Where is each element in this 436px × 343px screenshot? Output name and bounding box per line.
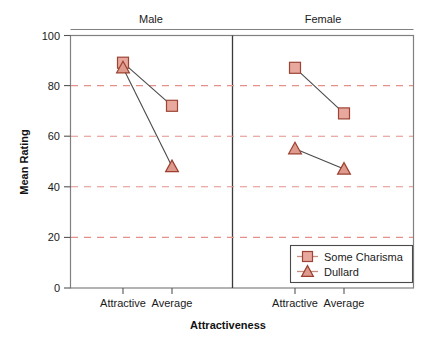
y-tick-label-40: 40 (48, 181, 60, 193)
segment-female-dullard (295, 149, 344, 169)
marker-female-dullard-average (338, 163, 351, 175)
x-tick-label-female-average: Average (324, 297, 365, 309)
marker-female-dullard-attractive (289, 142, 302, 154)
legend-label-dullard: Dullard (324, 266, 359, 278)
marker-female-charisma-average (339, 108, 350, 119)
legend-marker-square-icon (303, 252, 313, 262)
y-tick-label-100: 100 (42, 30, 60, 42)
series-male-some-charisma (118, 57, 178, 111)
series-female-some-charisma (290, 62, 350, 119)
y-axis-title: Mean Rating (18, 129, 30, 194)
x-tick-label-female-attractive: Attractive (272, 297, 318, 309)
y-tick-label-80: 80 (48, 80, 60, 92)
y-tick-label-60: 60 (48, 130, 60, 142)
series-male-dullard (117, 61, 179, 171)
legend-item-some-charisma[interactable]: Some Charisma (297, 251, 404, 263)
chart-container: Male Female 100 80 60 40 20 0 (0, 0, 436, 343)
marker-male-dullard-average (166, 160, 179, 172)
y-tick-label-0: 0 (54, 282, 60, 294)
gridlines (71, 86, 413, 238)
x-axis-title: Attractiveness (190, 319, 266, 331)
panel-title-male: Male (139, 13, 163, 25)
segment-female-charisma (295, 68, 344, 114)
legend-label-some-charisma: Some Charisma (324, 251, 404, 263)
y-axis-ticks (64, 36, 71, 289)
chart-svg: Male Female 100 80 60 40 20 0 (0, 0, 436, 343)
marker-male-charisma-average (167, 100, 178, 111)
x-tick-label-male-average: Average (152, 297, 193, 309)
legend-item-dullard[interactable]: Dullard (297, 266, 359, 278)
y-tick-label-20: 20 (48, 231, 60, 243)
panel-title-female: Female (305, 13, 342, 25)
marker-female-charisma-attractive (290, 62, 301, 73)
x-axis-ticks (123, 288, 344, 294)
segment-male-charisma (123, 63, 172, 106)
segment-male-dullard (123, 68, 172, 167)
series-female-dullard (289, 142, 351, 174)
chart-legend[interactable]: Some Charisma Dullard (291, 246, 413, 283)
x-tick-label-male-attractive: Attractive (100, 297, 146, 309)
